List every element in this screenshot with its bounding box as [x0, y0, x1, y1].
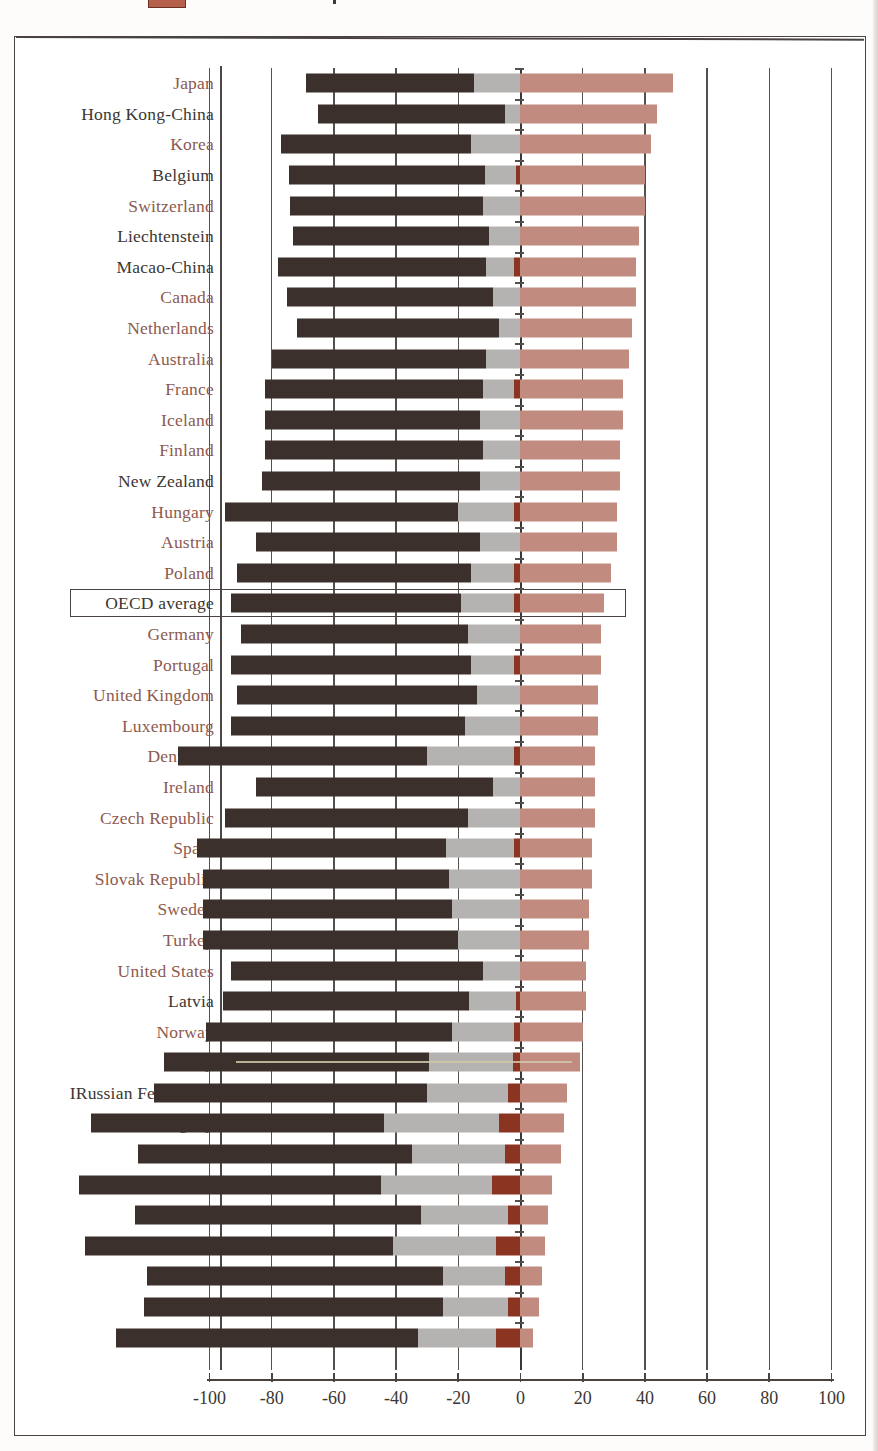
- stacked-bar: [203, 930, 589, 949]
- bar-segment-dark: [262, 472, 480, 491]
- chart-row: Italy: [0, 1047, 878, 1078]
- zero-axis-stub: [515, 588, 524, 590]
- bar-segment-dark: [231, 594, 461, 613]
- bar-segment-rose: [520, 1114, 564, 1133]
- zero-axis-stub: [515, 1231, 524, 1233]
- bar-segment-gray: [471, 135, 521, 154]
- bar-segment-dark: [231, 961, 483, 980]
- stacked-bar: [265, 380, 623, 399]
- zero-axis-stub: [515, 313, 524, 315]
- row-label: Luxembourg: [122, 715, 214, 736]
- row-label: Portugal: [153, 654, 214, 675]
- bar-segment-rose: [520, 563, 610, 582]
- bar-segment-dark: [223, 992, 469, 1011]
- bar-segment-gray: [393, 1236, 496, 1255]
- bar-segment-rose: [520, 1145, 560, 1164]
- zero-axis-stub: [515, 894, 524, 896]
- bar-segment-gray: [485, 166, 516, 185]
- stacked-bar: [116, 1328, 533, 1347]
- x-axis-label--40: -40: [384, 1388, 408, 1409]
- bar-segment-rose: [520, 839, 592, 858]
- bar-segment-gray: [483, 380, 514, 399]
- zero-axis-stub: [515, 190, 524, 192]
- bar-segment-gray: [480, 533, 520, 552]
- chart-row: United States: [0, 955, 878, 986]
- bar-segment-gray: [461, 594, 514, 613]
- bar-segment-dark: [178, 747, 427, 766]
- zero-axis-stub: [515, 1108, 524, 1110]
- bar-segment-rose: [520, 1267, 542, 1286]
- x-axis-tick--100: [209, 1373, 211, 1382]
- chart-row: Germany: [0, 619, 878, 650]
- bar-segment-gray: [486, 257, 514, 276]
- chart-row: Ireland: [0, 772, 878, 803]
- bar-segment-rose: [520, 900, 588, 919]
- bar-segment-rose: [520, 1175, 551, 1194]
- bar-segment-gray: [480, 472, 520, 491]
- row-label: Germany: [147, 623, 214, 644]
- row-label: OECD average: [105, 593, 214, 614]
- chart-row: Sweden: [0, 894, 878, 925]
- bar-segment-rose: [520, 808, 595, 827]
- stacked-bar: [231, 961, 586, 980]
- bar-segment-dark: [256, 533, 480, 552]
- x-axis-tick--20: [457, 1373, 459, 1382]
- bar-segment-dark: [241, 624, 468, 643]
- bar-segment-rose: [520, 624, 601, 643]
- bar-segment-dark: [231, 655, 470, 674]
- row-label: Switzerland: [128, 195, 214, 216]
- chart-row: Luxembourg: [0, 710, 878, 741]
- stacked-bar: [225, 502, 617, 521]
- zero-axis-stub: [515, 405, 524, 407]
- bar-segment-gray: [443, 1267, 505, 1286]
- x-axis-tick--60: [333, 1373, 335, 1382]
- bar-segment-darkred: [508, 1083, 520, 1102]
- zero-axis-stub: [515, 1047, 524, 1049]
- bar-segment-rose: [520, 319, 632, 338]
- zero-axis-stub: [515, 986, 524, 988]
- bar-segment-gray: [483, 441, 520, 460]
- zero-axis-stub: [515, 527, 524, 529]
- bar-segment-dark: [293, 227, 489, 246]
- row-label: United Kingdom: [93, 685, 214, 706]
- zero-axis-stub: [515, 435, 524, 437]
- zero-axis-stub: [515, 925, 524, 927]
- stacked-bar: [147, 1267, 542, 1286]
- bar-segment-dark: [237, 686, 476, 705]
- bar-segment-dark: [297, 319, 499, 338]
- x-axis-label-80: 80: [760, 1388, 778, 1409]
- bar-segment-darkred: [508, 1298, 520, 1317]
- bar-segment-gray: [384, 1114, 499, 1133]
- chart-row: Korea: [0, 129, 878, 160]
- bar-segment-rose: [520, 1022, 582, 1041]
- x-axis-label-20: 20: [574, 1388, 592, 1409]
- zero-axis-stub: [515, 99, 524, 101]
- chart-row: Austria: [0, 527, 878, 558]
- zero-axis-stub: [515, 221, 524, 223]
- bar-segment-darkred: [499, 1114, 521, 1133]
- zero-axis-stub: [515, 649, 524, 651]
- stacked-bar: [287, 288, 635, 307]
- bar-segment-rose: [520, 1328, 532, 1347]
- bar-segment-rose: [520, 961, 585, 980]
- zero-axis-stub: [515, 1169, 524, 1171]
- bar-segment-dark: [265, 441, 483, 460]
- bar-segment-rose: [520, 686, 598, 705]
- x-axis-tick-60: [706, 1373, 708, 1382]
- row-label: Canada: [160, 287, 214, 308]
- bar-segment-gray: [443, 1298, 508, 1317]
- row-label: Australia: [148, 348, 214, 369]
- bar-segment-dark: [225, 502, 458, 521]
- zero-axis-stub: [515, 252, 524, 254]
- stacked-bar: [297, 319, 633, 338]
- zero-axis-stub: [515, 1200, 524, 1202]
- stacked-bar: [203, 900, 589, 919]
- row-label: New Zealand: [118, 471, 214, 492]
- bar-segment-rose: [520, 349, 629, 368]
- bar-segment-dark: [206, 1022, 452, 1041]
- chart-row: Hong Kong-China: [0, 99, 878, 130]
- bar-segment-darkred: [496, 1328, 521, 1347]
- bar-segment-gray: [446, 839, 514, 858]
- bar-segment-dark: [85, 1236, 393, 1255]
- chart-row: Liechtenstein: [0, 221, 878, 252]
